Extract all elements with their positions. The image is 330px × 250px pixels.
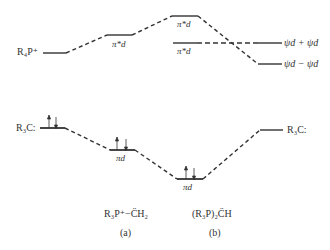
- species-a-tag: (a): [120, 228, 131, 238]
- label-psi-minus: ψd − ψd: [284, 59, 318, 69]
- species-b-tag: (b): [209, 228, 221, 238]
- species-b-formula: (R₃P)₂C̈H: [192, 209, 232, 219]
- label-pistar-b-lower: π*d: [177, 47, 191, 56]
- energy-diagram-lines: [0, 0, 330, 250]
- label-r3c-right: R₃C:: [287, 125, 307, 135]
- species-a-formula: R₃P⁺−C̈H₂: [104, 209, 148, 219]
- label-r4p: R₄P⁺: [17, 47, 38, 57]
- label-pistar-b-upper: π*d: [177, 20, 191, 29]
- label-pi-a: πd: [116, 154, 125, 163]
- label-pi-b: πd: [183, 183, 192, 192]
- label-r3c-left: R₃C:: [16, 123, 36, 133]
- label-psi-plus: ψd + ψd: [284, 38, 318, 48]
- label-pistar-a: π*d: [112, 40, 126, 49]
